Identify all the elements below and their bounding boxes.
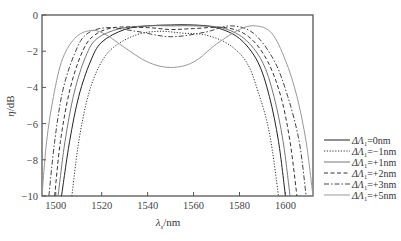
- x-axis-label: λs/nm: [155, 216, 181, 231]
- y-tick-label: −8: [27, 155, 38, 166]
- y-tick-label: −6: [27, 119, 38, 130]
- y-tick-label: −10: [22, 191, 38, 202]
- series-line-3: [55, 27, 297, 196]
- y-axis-label: η/dB: [4, 95, 16, 116]
- plot-border: [42, 15, 313, 196]
- line-chart: 150015201540156015801600 0−2−4−6−8−10 λs…: [0, 0, 401, 241]
- y-tick-label: 0: [33, 10, 38, 21]
- x-tick-label: 1500: [45, 200, 66, 211]
- legend: ΔΛ1=0nmΔΛ1=−1nmΔΛ1=+1nmΔΛ1=+2nmΔΛ1=+3nmΔ…: [324, 135, 396, 203]
- x-tick-label: 1520: [91, 200, 112, 211]
- x-tick-label: 1600: [275, 200, 296, 211]
- x-tick-label: 1560: [183, 200, 204, 211]
- series-line-2: [58, 26, 290, 196]
- curves: [42, 25, 313, 196]
- x-tick-label: 1580: [229, 200, 250, 211]
- plot-frame: [42, 15, 313, 196]
- x-axis-ticks: 150015201540156015801600: [45, 192, 296, 211]
- y-tick-label: −2: [27, 46, 38, 57]
- series-line-0: [62, 25, 286, 196]
- x-tick-label: 1540: [137, 200, 158, 211]
- series-line-1: [72, 31, 279, 196]
- y-tick-label: −4: [27, 82, 39, 93]
- legend-entry: ΔΛ1=+5nm: [351, 190, 396, 203]
